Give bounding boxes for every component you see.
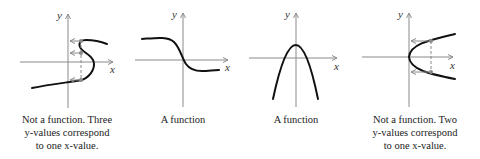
x-axis-label: x bbox=[333, 60, 339, 72]
caption-line: to one x-value. bbox=[360, 139, 470, 152]
caption-graph-4: Not a function. Two y-values correspond … bbox=[360, 113, 470, 152]
intersection-point bbox=[79, 51, 83, 55]
caption-graph-3: A function bbox=[253, 113, 339, 126]
caption-graph-1: Not a function. Three y-values correspon… bbox=[12, 113, 122, 152]
y-axis-label: y bbox=[171, 8, 177, 20]
y-axis-label: y bbox=[397, 8, 403, 20]
graph-2-function-curve: y x bbox=[135, 8, 230, 107]
y-axis-label: y bbox=[56, 9, 62, 21]
x-axis-label: x bbox=[224, 61, 230, 73]
x-axis-label: x bbox=[109, 63, 115, 75]
caption-line: A function bbox=[140, 113, 226, 126]
intersection-point bbox=[429, 70, 433, 74]
x-axis-label: x bbox=[449, 59, 455, 71]
caption-line: y-values correspond bbox=[12, 126, 122, 139]
graph-4-sideways-parabola: y x bbox=[362, 8, 455, 107]
intersection-point bbox=[79, 39, 83, 43]
y-axis-label: y bbox=[284, 8, 290, 20]
graph-3-parabola: y x bbox=[249, 8, 339, 107]
intersection-point bbox=[429, 39, 433, 43]
decreasing-curve bbox=[142, 38, 219, 71]
s-curve bbox=[32, 40, 107, 88]
caption-line: y-values correspond bbox=[360, 126, 470, 139]
caption-line: Not a function. Two bbox=[360, 113, 470, 126]
caption-line: to one x-value. bbox=[12, 139, 122, 152]
intersection-point bbox=[79, 78, 83, 82]
caption-graph-2: A function bbox=[140, 113, 226, 126]
caption-line: A function bbox=[253, 113, 339, 126]
caption-line: Not a function. Three bbox=[12, 113, 122, 126]
graph-1-s-curve: y x bbox=[20, 9, 115, 108]
